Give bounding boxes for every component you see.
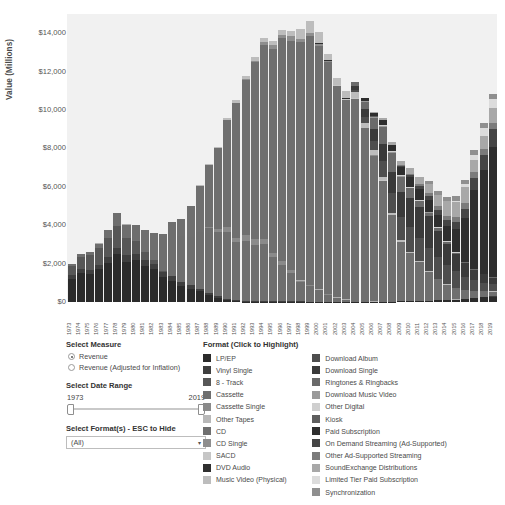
bar-segment[interactable] [141,266,149,302]
stacked-bar[interactable] [306,21,314,302]
bar-segment[interactable] [223,232,231,299]
bar-column[interactable] [214,14,223,302]
bar-column[interactable] [360,14,369,302]
legend-item[interactable]: Download Music Video [312,389,446,401]
bar-segment[interactable] [415,301,423,302]
bar-segment[interactable] [434,257,442,278]
bar-segment[interactable] [187,206,195,237]
bar-segment[interactable] [461,290,469,299]
legend-swatch-icon[interactable] [312,476,320,484]
legend-swatch-icon[interactable] [203,403,211,411]
slider-track[interactable] [72,408,200,410]
stacked-bar[interactable] [104,230,112,302]
bar-segment[interactable] [480,170,488,274]
legend-swatch-icon[interactable] [203,366,211,374]
stacked-bar[interactable] [351,82,359,302]
legend-item[interactable]: Cassette Single [203,401,298,413]
legend-swatch-icon[interactable] [312,427,320,435]
bar-segment[interactable] [461,187,469,204]
bar-segment[interactable] [214,298,222,302]
stacked-bar[interactable] [122,224,130,302]
bar-segment[interactable] [214,232,222,296]
bar-column[interactable] [461,14,470,302]
legend-item[interactable]: Cassette [203,389,298,401]
bar-segment[interactable] [461,277,469,290]
bar-column[interactable] [195,14,204,302]
bar-column[interactable] [104,14,113,302]
bar-column[interactable] [204,14,213,302]
bar-segment[interactable] [452,288,460,300]
bar-column[interactable] [433,14,442,302]
bar-segment[interactable] [168,281,176,302]
bar-segment[interactable] [470,280,478,291]
bar-segment[interactable] [452,300,460,302]
bar-segment[interactable] [397,242,405,302]
bar-column[interactable] [314,14,323,302]
stacked-bar[interactable] [132,225,140,302]
bar-segment[interactable] [342,91,350,98]
bar-column[interactable] [378,14,387,302]
legend-swatch-icon[interactable] [312,354,320,362]
bar-segment[interactable] [95,248,103,264]
stacked-bar[interactable] [333,77,341,302]
bar-segment[interactable] [388,215,396,301]
bar-segment[interactable] [379,181,387,302]
bar-segment[interactable] [489,297,497,302]
legend-item[interactable]: DVD Audio [203,462,298,474]
stacked-bar[interactable] [141,230,149,302]
bar-segment[interactable] [361,109,369,117]
bar-column[interactable] [442,14,451,302]
bar-segment[interactable] [425,248,433,271]
bar-segment[interactable] [95,269,103,302]
bar-segment[interactable] [86,274,94,302]
bar-column[interactable] [387,14,396,302]
bar-column[interactable] [397,14,406,302]
bar-column[interactable] [113,14,122,302]
bar-segment[interactable] [443,201,451,216]
bar-segment[interactable] [205,165,213,226]
bar-column[interactable] [177,14,186,302]
bar-segment[interactable] [361,102,369,110]
date-range-slider[interactable] [67,404,205,415]
legend-swatch-icon[interactable] [203,415,211,423]
bar-segment[interactable] [480,128,488,136]
bar-segment[interactable] [388,193,396,212]
bar-segment[interactable] [425,272,433,301]
bar-segment[interactable] [425,216,433,248]
bar-segment[interactable] [461,299,469,302]
bar-segment[interactable] [480,274,488,282]
bar-segment[interactable] [141,252,149,261]
bar-segment[interactable] [251,62,259,239]
bar-column[interactable] [85,14,94,302]
bar-segment[interactable] [361,128,369,301]
legend-swatch-icon[interactable] [203,464,211,472]
bar-segment[interactable] [104,238,112,257]
legend-swatch-icon[interactable] [203,378,211,386]
bar-segment[interactable] [434,215,442,227]
bar-segment[interactable] [415,262,423,300]
stacked-bar[interactable] [379,118,387,302]
stacked-bar[interactable] [86,252,94,302]
bar-segment[interactable] [269,257,277,301]
legend-item[interactable]: Synchronization [312,486,446,498]
bar-segment[interactable] [122,262,130,302]
bar-segment[interactable] [452,271,460,287]
legend-swatch-icon[interactable] [203,427,211,435]
bar-segment[interactable] [415,177,423,184]
bar-segment[interactable] [397,301,405,302]
bar-segment[interactable] [251,245,259,301]
legend-swatch-icon[interactable] [312,391,320,399]
bar-column[interactable] [232,14,241,302]
bar-segment[interactable] [141,230,149,251]
bar-segment[interactable] [425,301,433,302]
bar-segment[interactable] [159,236,167,271]
bar-segment[interactable] [232,103,240,237]
bar-column[interactable] [406,14,415,302]
stacked-bar[interactable] [68,264,76,302]
bar-segment[interactable] [425,200,433,212]
bar-segment[interactable] [68,266,76,276]
bar-column[interactable] [470,14,479,302]
bar-segment[interactable] [452,254,460,271]
bar-segment[interactable] [470,270,478,281]
chevron-down-icon[interactable]: ▾ [198,440,201,446]
